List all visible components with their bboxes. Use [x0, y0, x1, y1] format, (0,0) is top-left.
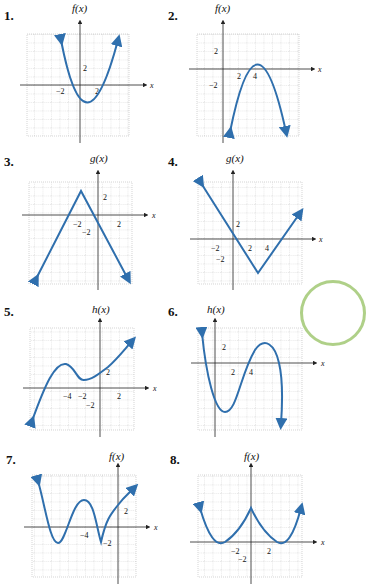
svg-text:−2: −2 [73, 220, 82, 229]
svg-text:2: 2 [231, 368, 235, 377]
graph-1: x −222 [20, 22, 154, 143]
svg-text:−2: −2 [103, 539, 112, 548]
svg-text:−2: −2 [78, 392, 87, 401]
svg-text:2: 2 [83, 64, 87, 73]
svg-text:−2: −2 [82, 228, 91, 237]
svg-text:−2: −2 [209, 81, 218, 90]
svg-text:2: 2 [214, 47, 218, 56]
graph-5: x −4−22 2−2 [23, 320, 157, 437]
svg-text:−4: −4 [80, 531, 89, 540]
svg-text:x: x [318, 235, 323, 244]
svg-text:−2: −2 [86, 401, 95, 410]
graph-2: x 24 2−2 [189, 22, 322, 143]
svg-text:x: x [320, 359, 325, 368]
svg-text:2: 2 [117, 220, 121, 229]
svg-text:2: 2 [103, 193, 107, 202]
graph-3: x −22 2−2 [22, 172, 156, 290]
svg-text:x: x [320, 538, 325, 547]
svg-text:4: 4 [265, 244, 269, 253]
graph-4: x −224 2−2 [190, 172, 323, 290]
svg-text:x: x [152, 384, 157, 393]
svg-text:2: 2 [236, 220, 240, 229]
svg-text:2: 2 [222, 343, 226, 352]
svg-text:2: 2 [267, 547, 271, 556]
graph-6: x 24 2 [191, 320, 325, 437]
svg-text:x: x [153, 523, 158, 532]
svg-text:2: 2 [106, 368, 110, 377]
svg-text:2: 2 [248, 244, 252, 253]
svg-text:2: 2 [124, 507, 128, 516]
svg-text:−2: −2 [238, 555, 247, 564]
svg-text:2: 2 [117, 392, 121, 401]
svg-text:2: 2 [237, 72, 241, 81]
svg-text:−2: −2 [216, 255, 225, 264]
svg-text:4: 4 [249, 368, 253, 377]
svg-text:−2: −2 [211, 244, 220, 253]
svg-text:x: x [149, 81, 154, 90]
svg-text:4: 4 [253, 72, 257, 81]
graph-7: x −4−2 2 [24, 465, 158, 584]
svg-text:−4: −4 [63, 392, 72, 401]
svg-text:−2: −2 [56, 87, 65, 96]
graph-8: x −22 −2 [190, 465, 325, 584]
svg-text:x: x [151, 211, 156, 220]
svg-text:x: x [317, 65, 322, 74]
